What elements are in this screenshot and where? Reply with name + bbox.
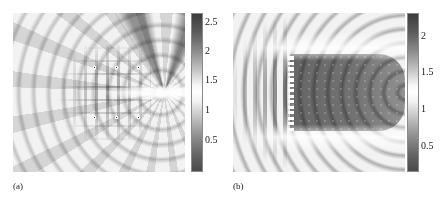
panel-caption-a: (a) <box>13 181 23 191</box>
colorbar-tick-b-2: 1 <box>421 104 426 114</box>
colorbar-tick-b-1: 1.5 <box>421 67 434 77</box>
colorbar-tick-b-0: 2 <box>421 31 426 41</box>
halo-bands-b <box>233 13 405 172</box>
colorbar-b <box>407 13 419 172</box>
panel-caption-b: (b) <box>233 181 244 191</box>
colorbar-tick-a-2: 1.5 <box>205 75 218 85</box>
colorbar-ticks-b: 2 1.5 1 0.5 <box>421 13 446 172</box>
colorbar-ticks-a: 2.5 2 1.5 1 0.5 <box>205 13 235 172</box>
colorbar-tick-a-4: 0.5 <box>205 135 218 145</box>
colorbar-tick-a-1: 2 <box>205 46 210 56</box>
colorbar-a <box>191 13 203 172</box>
axial-jet-a <box>13 13 185 172</box>
figure-container: 2.5 2 1.5 1 0.5 (a) 2 1.5 1 0.5 (b) <box>0 0 446 201</box>
colorbar-tick-b-3: 0.5 <box>421 141 434 151</box>
colorbar-tick-a-0: 2.5 <box>205 17 218 27</box>
heatmap-panel-b <box>233 13 405 172</box>
colorbar-tick-a-3: 1 <box>205 105 210 115</box>
heatmap-panel-a <box>13 13 185 172</box>
colorbar-gradient-a <box>192 14 202 171</box>
colorbar-gradient-b <box>408 14 418 171</box>
